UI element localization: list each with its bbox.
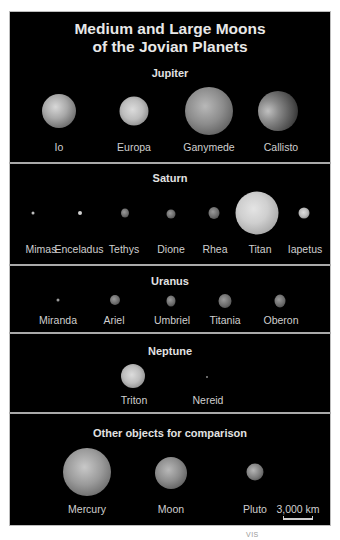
moon-nereid-image <box>206 376 208 378</box>
moon-label-dione: Dione <box>157 243 184 255</box>
moon-io-image <box>42 94 76 128</box>
scale-bar <box>283 518 313 520</box>
moon-titania-image <box>219 294 232 308</box>
moon-label-mimas: Mimas <box>26 243 57 255</box>
moon-label-tethys: Tethys <box>109 243 139 255</box>
mercury-image <box>63 448 111 496</box>
moon-callisto-image <box>258 91 298 131</box>
moon-triton-image <box>121 364 145 388</box>
section-heading-comparison: Other objects for comparison <box>9 427 331 439</box>
moon-label-oberon: Oberon <box>263 314 298 326</box>
section-divider <box>9 162 331 164</box>
moon-label-callisto: Callisto <box>264 141 298 153</box>
moon-label-europa: Europa <box>117 141 151 153</box>
moon-label-umbriel: Umbriel <box>154 314 190 326</box>
moon-titan-image <box>236 192 279 235</box>
figure-title-line2: of the Jovian Planets <box>9 38 331 56</box>
moon-label-ariel: Ariel <box>103 314 124 326</box>
figure-title-line1: Medium and Large Moons <box>9 20 331 38</box>
object-label-moon: Moon <box>158 503 184 515</box>
moon-label-nereid: Nereid <box>193 394 224 406</box>
object-label-pluto: Pluto <box>243 503 267 515</box>
moon-miranda-image <box>57 299 60 302</box>
moon-ariel-image <box>110 295 120 305</box>
moon-label-miranda: Miranda <box>39 314 77 326</box>
moon-label-io: Io <box>55 141 64 153</box>
section-heading-saturn: Saturn <box>9 172 331 184</box>
moon-label-ganymede: Ganymede <box>183 141 234 153</box>
moon-dione-image <box>167 210 176 219</box>
section-divider <box>9 332 331 334</box>
moon-tethys-image <box>121 209 129 218</box>
moon-europa-image <box>120 97 149 126</box>
figure-panel <box>9 11 331 526</box>
pluto-image <box>247 464 264 481</box>
moon-ganymede-image <box>185 87 233 135</box>
earth-moon-image <box>155 457 187 489</box>
moon-oberon-image <box>275 295 286 308</box>
moon-label-titania: Titania <box>209 314 240 326</box>
scale-label: 3,000 km <box>276 503 319 515</box>
moon-label-triton: Triton <box>121 394 147 406</box>
section-divider <box>9 264 331 266</box>
moon-mimas-image <box>32 212 35 215</box>
moon-rhea-image <box>209 207 220 219</box>
moon-label-iapetus: Iapetus <box>288 243 322 255</box>
section-heading-uranus: Uranus <box>9 275 331 287</box>
section-divider <box>9 412 331 414</box>
moon-umbriel-image <box>167 296 176 307</box>
section-heading-jupiter: Jupiter <box>9 67 331 79</box>
object-label-mercury: Mercury <box>68 503 106 515</box>
moon-label-rhea: Rhea <box>202 243 227 255</box>
moon-label-enceladus: Enceladus <box>54 243 103 255</box>
moon-label-titan: Titan <box>249 243 272 255</box>
moon-enceladus-image <box>78 211 82 215</box>
moon-iapetus-image <box>299 208 310 219</box>
footnote-label: VIS <box>246 531 259 538</box>
section-heading-neptune: Neptune <box>9 345 331 357</box>
